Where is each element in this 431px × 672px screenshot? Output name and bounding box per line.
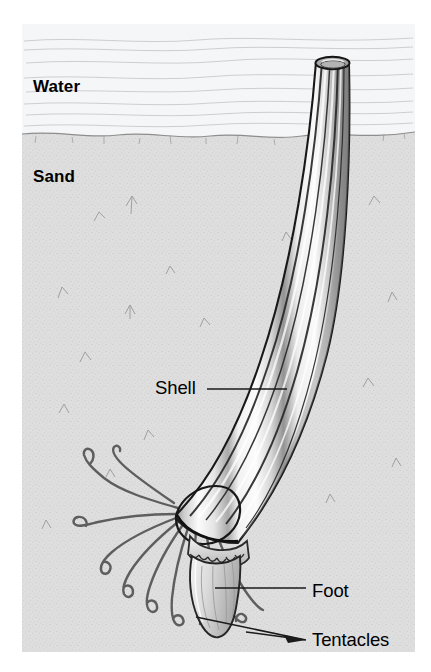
label-tentacles: Tentacles: [312, 631, 389, 650]
label-foot: Foot: [312, 582, 349, 601]
label-sand: Sand: [33, 168, 75, 185]
label-shell: Shell: [155, 379, 196, 398]
shell-apex: [316, 57, 350, 69]
tusk-shell-figure: Water Sand Shell Foot Tentacles: [0, 0, 431, 672]
water-region: [22, 24, 415, 136]
label-water: Water: [33, 78, 80, 95]
illustration-canvas: [0, 0, 431, 672]
